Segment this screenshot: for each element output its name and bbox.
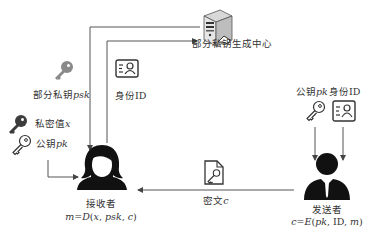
pk-key-outline-icon [10,134,32,156]
sender-id-card-icon [332,100,356,122]
receiver-label: 接收者 [86,199,116,209]
pk-sender-label: 公钥pk [296,87,328,97]
diagram-canvas: 部分私钥生成中心 部分私钥psk 身份ID 私密值x 公钥pk 接收者 m=D(… [0,0,372,234]
receiver-formula: m=D(x, psk, c) [65,212,137,222]
ciphertext-document-icon [204,160,224,185]
sender-formula: c=E(pk, ID, m) [291,217,363,227]
ciphertext-label: 密文c [203,196,228,206]
kgc-label: 部分私钥生成中心 [192,39,272,49]
id-card-icon [115,59,139,78]
edge-pk-to-receiver [48,160,78,177]
identity-top-label: 身份ID [115,91,146,101]
secret-key-icon [6,114,28,136]
identity-sender-label: 身份ID [329,87,360,97]
sender-label: 发送者 [312,205,342,215]
receiver-female-icon [76,143,128,191]
pk-receiver-label: 公钥pk [36,139,68,149]
sender-male-icon [302,151,352,201]
secret-label: 私密值x [35,119,70,129]
psk-label: 部分私钥psk [33,90,90,100]
sender-pk-key-outline-icon [304,100,326,122]
psk-key-icon [52,60,74,82]
